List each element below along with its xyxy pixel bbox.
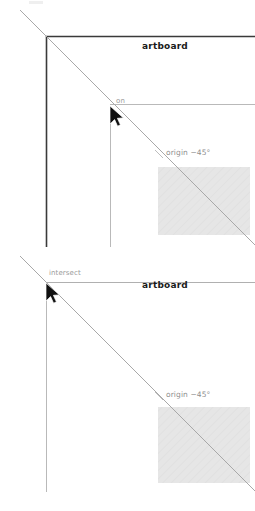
origin-tick-bottom bbox=[155, 392, 163, 400]
origin-angle-label-top: origin −45° bbox=[166, 149, 210, 157]
panel-top bbox=[20, 10, 255, 247]
origin-45-line-top bbox=[20, 10, 255, 245]
panel-bottom bbox=[20, 256, 255, 492]
snap-hint-label-on: on bbox=[116, 98, 125, 105]
clipped-top-artifact bbox=[29, 1, 43, 4]
shape-square-top[interactable] bbox=[158, 167, 250, 235]
artboard-label-bottom: artboard bbox=[142, 281, 188, 290]
snap-hint-label-intersect: intersect bbox=[49, 270, 81, 277]
cursor-pointer-top[interactable] bbox=[110, 106, 123, 126]
origin-angle-label-bottom: origin −45° bbox=[166, 391, 210, 399]
snap-guide-illustration bbox=[0, 0, 255, 511]
diagram-canvas: artboard on origin −45° intersect artboa… bbox=[0, 0, 255, 511]
cursor-pointer-bottom[interactable] bbox=[46, 283, 59, 303]
artboard-label-top: artboard bbox=[142, 42, 188, 51]
